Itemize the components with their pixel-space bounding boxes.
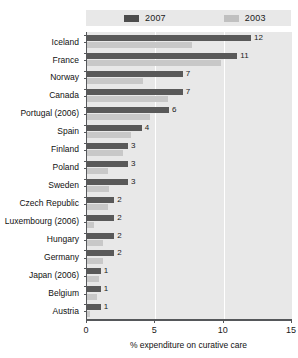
category-label: Norway (50, 68, 79, 87)
bar-value-label: 2 (117, 213, 121, 222)
bar-2003 (87, 42, 192, 48)
category-label: Germany (44, 247, 79, 266)
category-label: Poland (53, 158, 79, 177)
bar-value-label: 4 (145, 123, 149, 132)
bar-2003 (87, 60, 221, 66)
bar-value-label: 12 (254, 33, 263, 42)
legend-swatch-2003 (224, 15, 239, 22)
bar-2007 (87, 233, 114, 239)
bar-2003 (87, 311, 90, 317)
category-label: Canada (49, 86, 79, 105)
legend-item-2007: 2007 (124, 14, 166, 23)
bar-value-label: 3 (131, 159, 135, 168)
category-label: Spain (57, 122, 79, 141)
bar-2003 (87, 240, 103, 246)
bar-2007 (87, 89, 183, 95)
x-tick (291, 319, 292, 323)
category-label: Czech Republic (19, 193, 79, 212)
bar-2003 (87, 96, 168, 102)
bar-2007 (87, 250, 114, 256)
chart-legend: 2007 2003 (86, 10, 291, 26)
category-label: Hungary (47, 229, 79, 248)
legend-label-2003: 2003 (245, 14, 266, 23)
bar-row: 7 (87, 68, 292, 87)
bar-2003 (87, 258, 103, 264)
bar-row: 4 (87, 122, 292, 141)
x-tick-label: 5 (152, 325, 157, 335)
legend-label-2007: 2007 (145, 14, 166, 23)
bar-row: 1 (87, 301, 292, 320)
bar-2003 (87, 186, 109, 192)
bar-value-label: 3 (131, 177, 135, 186)
bar-value-label: 3 (131, 141, 135, 150)
bar-2007 (87, 161, 128, 167)
x-tick (154, 319, 155, 323)
x-tick-label: 15 (286, 325, 296, 335)
bar-2003 (87, 294, 97, 300)
bar-2003 (87, 276, 99, 282)
bar-row: 1 (87, 283, 292, 302)
bar-row: 3 (87, 140, 292, 159)
legend-item-2003: 2003 (224, 14, 266, 23)
bar-2003 (87, 204, 108, 210)
bar-row: 2 (87, 229, 292, 248)
gridline-15 (292, 32, 293, 319)
bar-2003 (87, 78, 143, 84)
bar-value-label: 7 (186, 69, 190, 78)
x-tick (86, 319, 87, 323)
bar-row: 3 (87, 158, 292, 177)
bar-2007 (87, 286, 101, 292)
plot-area: 121177643332222111 (86, 32, 292, 319)
bar-row: 1 (87, 265, 292, 284)
bar-2007 (87, 179, 128, 185)
bar-value-label: 2 (117, 231, 121, 240)
category-label: Belgium (48, 283, 79, 302)
bar-value-label: 1 (104, 302, 108, 311)
bar-value-label: 1 (104, 266, 108, 275)
bar-2007 (87, 268, 101, 274)
bar-row: 2 (87, 211, 292, 230)
x-tick-label: 10 (218, 325, 228, 335)
category-label: Luxembourg (2006) (5, 211, 79, 230)
bar-2007 (87, 53, 237, 59)
bar-value-label: 11 (240, 51, 248, 60)
bar-2003 (87, 168, 108, 174)
category-label: Sweden (48, 176, 79, 195)
bar-value-label: 2 (117, 195, 121, 204)
bar-2003 (87, 114, 150, 120)
category-label: Iceland (52, 32, 79, 51)
bar-row: 12 (87, 32, 292, 51)
x-axis-title: % expenditure on curative care (86, 340, 291, 350)
bar-row: 7 (87, 86, 292, 105)
x-tick-label: 0 (83, 325, 88, 335)
category-label: Japan (2006) (29, 265, 79, 284)
bar-2007 (87, 143, 128, 149)
bar-2003 (87, 222, 94, 228)
bar-row: 3 (87, 176, 292, 195)
bar-2007 (87, 107, 169, 113)
bar-value-label: 1 (104, 284, 108, 293)
bar-2003 (87, 132, 131, 138)
category-axis-labels: IcelandFranceNorwayCanadaPortugal (2006)… (0, 32, 83, 319)
bar-2003 (87, 150, 123, 156)
bar-2007 (87, 35, 251, 41)
bar-value-label: 6 (172, 105, 176, 114)
bar-2007 (87, 125, 142, 131)
bar-2007 (87, 304, 101, 310)
bar-value-label: 7 (186, 87, 190, 96)
category-label: Portugal (2006) (20, 104, 79, 123)
bar-2007 (87, 71, 183, 77)
bar-chart: 2007 2003 IcelandFranceNorwayCanadaPortu… (0, 0, 298, 358)
bar-row: 6 (87, 104, 292, 123)
x-axis-line (86, 319, 291, 321)
bar-row: 2 (87, 247, 292, 266)
bar-2007 (87, 215, 114, 221)
bar-2007 (87, 197, 114, 203)
category-label: Finland (51, 140, 79, 159)
bar-row: 11 (87, 50, 292, 69)
bar-value-label: 2 (117, 248, 121, 257)
bar-row: 2 (87, 193, 292, 212)
category-label: Austria (53, 301, 79, 320)
legend-swatch-2007 (124, 15, 139, 22)
x-tick (223, 319, 224, 323)
